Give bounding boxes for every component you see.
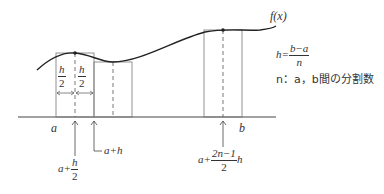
label-last-midpoint: a+2n−12h [198, 148, 242, 173]
axis-label-b: b [239, 121, 245, 136]
definition-n: n：a，b間の分割数 [276, 70, 374, 86]
label-first-midpoint: a+h2 [58, 157, 78, 182]
half-width-label-right: h2 [78, 64, 86, 89]
function-curve [37, 26, 276, 70]
definition-h: h=b−an [276, 43, 309, 68]
half-width-label-left: h2 [58, 64, 66, 89]
axis-label-a: a [51, 121, 57, 136]
midpoint-dot-1 [73, 51, 77, 55]
label-second-edge: a+h [104, 144, 122, 156]
function-label: f(x) [270, 9, 287, 24]
midpoint-dot-n [221, 28, 225, 32]
